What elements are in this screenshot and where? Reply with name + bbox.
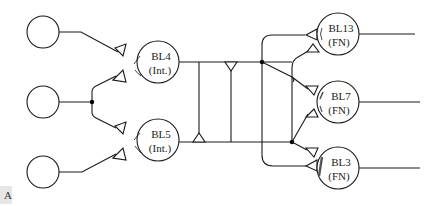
bl5-role: (Int.) — [149, 142, 172, 155]
synapse-triangle — [193, 133, 205, 142]
bl3-name: BL3 — [331, 156, 351, 168]
neuron-bl4 — [137, 41, 179, 83]
axon-to-bl13-lower — [292, 50, 310, 80]
branch-node — [90, 100, 94, 104]
neuron-bl13 — [317, 13, 359, 55]
bl4-name: BL4 — [151, 50, 171, 62]
panel-label: A — [0, 186, 12, 204]
neuron-bl7 — [317, 81, 359, 123]
neuron-bl5 — [137, 119, 179, 161]
synapse-triangle — [115, 122, 126, 134]
bl5-name: BL5 — [151, 128, 171, 140]
axon-top-to-bl4 — [59, 32, 118, 52]
bl7-name: BL7 — [331, 90, 351, 102]
bl13-role: (FN) — [328, 36, 350, 49]
synapse-triangle — [306, 86, 318, 95]
input-cell-middle — [27, 86, 59, 118]
synapse-triangle — [307, 44, 319, 52]
neuron-bl3 — [317, 147, 359, 189]
input-cell-top — [27, 16, 59, 48]
bl4-role: (Int.) — [149, 64, 172, 77]
synapse-triangle — [225, 62, 237, 71]
axon-bottom-to-bl7 — [292, 114, 308, 142]
axon-bottom-to-bl3 — [292, 142, 307, 150]
axon-bottom-to-bl5 — [59, 154, 116, 172]
axon-to-bl7 — [262, 62, 294, 82]
synapse-triangle — [306, 109, 318, 117]
synapse-triangle — [306, 160, 317, 171]
synapse-triangle — [306, 29, 317, 40]
circuit-diagram: BL4 (Int.) BL5 (Int.) BL13 (FN) BL7 (FN) — [0, 0, 442, 206]
bl13-name: BL13 — [328, 22, 354, 34]
input-cell-bottom — [27, 156, 59, 188]
bl3-role: (FN) — [328, 170, 350, 183]
synapse-triangle — [306, 148, 318, 157]
bl7-role: (FN) — [328, 104, 350, 117]
axon-middle-to-bl5 — [92, 102, 116, 128]
axon-to-bl7-2 — [292, 77, 308, 89]
synapse-triangle — [115, 44, 126, 56]
axon-to-bl13 — [262, 35, 305, 62]
